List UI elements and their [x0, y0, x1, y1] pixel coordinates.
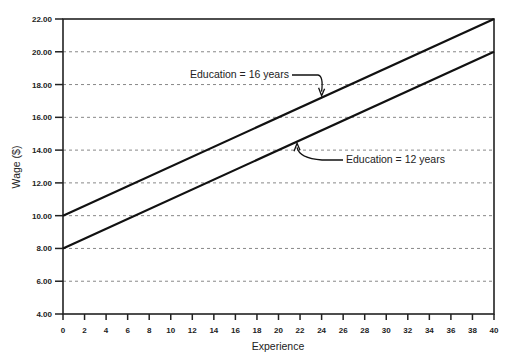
x-tick-label: 34 [425, 326, 434, 335]
y-axis-ticks: 4.006.008.0010.0012.0014.0016.0018.0020.… [32, 15, 63, 319]
x-tick-label: 4 [104, 326, 109, 335]
series-lines [63, 19, 494, 248]
x-tick-label: 14 [209, 326, 218, 335]
x-tick-label: 8 [147, 326, 152, 335]
x-tick-label: 30 [382, 326, 391, 335]
x-tick-label: 6 [125, 326, 130, 335]
y-tick-label: 12.00 [32, 179, 53, 188]
x-tick-label: 40 [490, 326, 499, 335]
y-tick-label: 20.00 [32, 48, 53, 57]
y-tick-label: 6.00 [36, 277, 52, 286]
annotation-arrow [292, 75, 322, 92]
x-tick-label: 22 [296, 326, 305, 335]
x-tick-label: 18 [252, 326, 261, 335]
x-tick-label: 16 [231, 326, 240, 335]
wage-experience-chart: 4.006.008.0010.0012.0014.0016.0018.0020.… [0, 0, 514, 364]
y-tick-label: 4.00 [36, 310, 52, 319]
x-tick-label: 24 [317, 326, 326, 335]
x-tick-label: 2 [82, 326, 87, 335]
x-tick-label: 12 [188, 326, 197, 335]
x-axis-title: Experience [252, 340, 305, 352]
annotation-arrow [297, 147, 343, 160]
x-tick-label: 38 [468, 326, 477, 335]
x-tick-label: 28 [360, 326, 369, 335]
y-tick-label: 22.00 [32, 15, 53, 24]
y-axis-title: Wage ($) [10, 146, 22, 189]
x-tick-label: 32 [403, 326, 412, 335]
x-tick-label: 10 [166, 326, 175, 335]
x-tick-label: 20 [274, 326, 283, 335]
y-tick-label: 14.00 [32, 146, 53, 155]
plot-frame [63, 19, 494, 314]
y-tick-label: 8.00 [36, 244, 52, 253]
axes [63, 19, 494, 314]
annotation-12-years-label: Education = 12 years [346, 153, 445, 165]
gridlines [63, 52, 494, 281]
x-tick-label: 26 [339, 326, 348, 335]
y-tick-label: 18.00 [32, 81, 53, 90]
y-tick-label: 16.00 [32, 113, 53, 122]
x-tick-label: 0 [61, 326, 66, 335]
x-tick-label: 36 [446, 326, 455, 335]
y-tick-label: 10.00 [32, 212, 53, 221]
x-axis-ticks: 0246810121416182022242628303234363840 [61, 314, 499, 335]
annotation-16-years-label: Education = 16 years [190, 68, 289, 80]
